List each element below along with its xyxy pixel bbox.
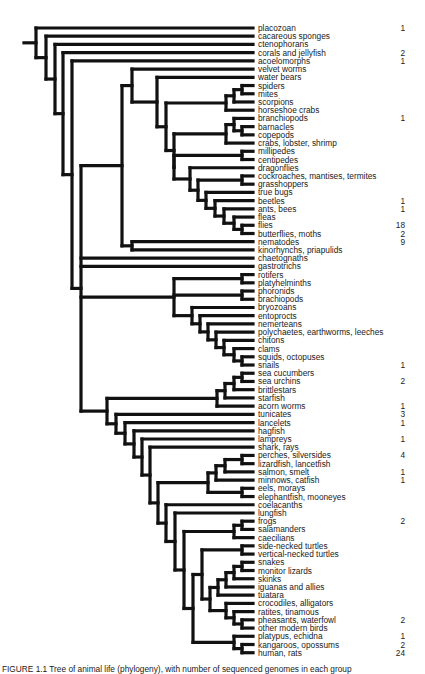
genome-count: 1	[400, 435, 405, 443]
figure-caption: FIGURE 1.1 Tree of animal life (phylogen…	[2, 664, 352, 674]
genome-count: 2	[400, 616, 405, 624]
genome-count: 1	[400, 476, 405, 484]
genome-count: 4	[400, 451, 405, 459]
genome-count: 1	[400, 205, 405, 213]
genome-count: 2	[400, 517, 405, 525]
genome-count: 1	[400, 419, 405, 427]
genome-count: 24	[396, 649, 405, 657]
genome-count: 2	[400, 377, 405, 385]
genome-count: 1	[400, 24, 405, 32]
leaf-label: human, rats	[258, 649, 302, 657]
genome-count: 9	[400, 238, 405, 246]
genome-count: 1	[400, 57, 405, 65]
genome-count: 1	[400, 361, 405, 369]
genome-count: 1	[400, 114, 405, 122]
